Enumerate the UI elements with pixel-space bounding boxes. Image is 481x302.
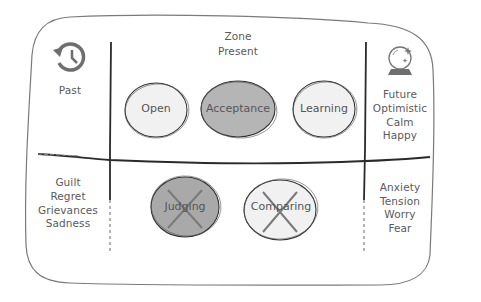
zone-title: Zone bbox=[200, 30, 276, 44]
past-label: Past bbox=[45, 84, 95, 98]
zone-subtitle: Present bbox=[200, 45, 276, 59]
divider-left bbox=[110, 42, 111, 200]
past-feeling: Regret bbox=[30, 190, 106, 204]
history-icon bbox=[53, 44, 84, 70]
past-feeling: Guilt bbox=[30, 176, 106, 190]
future-worry: Fear bbox=[368, 222, 432, 236]
bubble-label-learning: Learning bbox=[294, 102, 354, 115]
future-feeling: Optimistic bbox=[370, 102, 430, 116]
bubble-label-judging: Judging bbox=[150, 200, 220, 213]
past-feeling: Grievances bbox=[30, 204, 106, 218]
future-worry: Anxiety bbox=[368, 181, 432, 195]
divider-horizontal bbox=[38, 154, 430, 163]
bubble-label-acceptance: Acceptance bbox=[200, 102, 276, 115]
crystal-ball-icon bbox=[388, 47, 412, 75]
future-worry: Worry bbox=[368, 208, 432, 222]
past-feeling: Sadness bbox=[30, 217, 106, 231]
bubble-label-comparing: Comparing bbox=[243, 200, 319, 213]
future-feeling: Happy bbox=[370, 129, 430, 143]
divider-right bbox=[364, 42, 366, 200]
bubble-label-open: Open bbox=[126, 102, 186, 115]
future-worry: Tension bbox=[368, 195, 432, 209]
future-label: Future bbox=[370, 88, 430, 102]
future-feeling: Calm bbox=[370, 116, 430, 130]
